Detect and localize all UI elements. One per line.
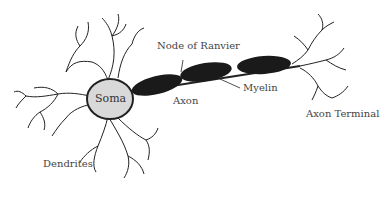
node-of-ranvier-label: Node of Ranvier <box>157 40 240 51</box>
axon-shape <box>130 54 300 100</box>
dendrites-label: Dendrites <box>43 158 93 169</box>
myelin-segment <box>236 54 291 76</box>
neuron-diagram: Soma Dendrites Node of Ranvier Axon Myel… <box>0 0 392 201</box>
axon-terminal-label: Axon Terminal <box>306 108 379 119</box>
myelin-label: Myelin <box>243 82 278 93</box>
axon-terminal-shape <box>292 14 348 100</box>
axon-label: Axon <box>173 95 198 106</box>
dendrites-shape <box>14 14 158 178</box>
soma-label: Soma <box>95 92 126 105</box>
myelin-pointer-line <box>220 79 240 88</box>
node-pointer-line <box>181 60 183 72</box>
